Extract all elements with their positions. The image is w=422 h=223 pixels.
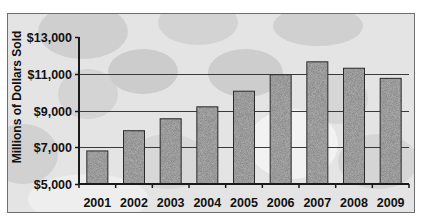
y-axis-title: Millions of Dollars Sold	[10, 27, 26, 167]
x-tick-label: 2007	[303, 196, 331, 210]
x-tick-label: 2003	[157, 196, 185, 210]
bars	[87, 62, 401, 184]
x-tick-label: 2008	[340, 196, 368, 210]
y-tick-label: $11,000	[28, 68, 73, 82]
x-tick-label: 2002	[120, 196, 148, 210]
bar-texture	[344, 68, 365, 184]
y-axis-tick-labels: $5,000$7,000$9,000$11,000$13,000	[27, 31, 72, 192]
bar-texture	[234, 91, 255, 184]
y-tick-label: $5,000	[34, 178, 72, 192]
y-tick-label: $9,000	[34, 105, 72, 119]
y-tick-label: $7,000	[34, 141, 72, 155]
x-tick-label: 2001	[83, 196, 111, 210]
bar-texture	[307, 62, 328, 184]
x-tick-label: 2009	[377, 196, 405, 210]
bar-texture	[270, 75, 291, 184]
y-tick-label: $13,000	[27, 31, 72, 45]
bar-texture	[197, 107, 218, 184]
bar-chart: $5,000$7,000$9,000$11,000$13,000 2001200…	[0, 0, 422, 223]
bar-texture	[124, 131, 145, 184]
bar-texture	[87, 151, 108, 184]
x-tick-label: 2004	[193, 196, 221, 210]
bar-texture	[160, 119, 181, 184]
bar-texture	[380, 78, 401, 184]
x-axis-tick-labels: 200120022003200420052006200720082009	[83, 196, 404, 210]
x-tick-label: 2006	[267, 196, 295, 210]
x-tick-label: 2005	[230, 196, 258, 210]
